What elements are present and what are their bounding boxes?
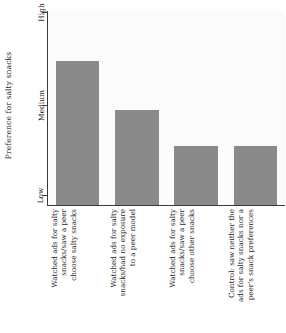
x-tick-label-3-line3: peer's snack preferences: [246, 209, 255, 302]
bar-1: [115, 110, 159, 205]
x-tick-label-2: Watched ads for salty snacks/saw a peer …: [168, 207, 224, 333]
y-tick-mark-high: [42, 12, 47, 13]
bars-layer: [48, 11, 285, 205]
y-tick-mark-low: [42, 195, 47, 196]
bar-chart: Preference for salty snacks High Medium …: [0, 0, 286, 333]
x-tick-label-2-line1: Watched ads for salty: [168, 209, 177, 288]
y-axis-title-text: Preference for salty snacks: [5, 51, 14, 159]
x-tick-label-3: Control: saw neither the ads for salty s…: [227, 207, 283, 333]
x-labels-layer: Watched ads for salty snacks/saw a peer …: [48, 207, 285, 333]
x-tick-label-0: Watched ads for salty snacks/saw a peer …: [50, 207, 106, 333]
x-tick-label-2-line3: choose other snacks: [187, 209, 196, 288]
bar-0: [56, 61, 100, 205]
bar-3: [234, 146, 278, 205]
y-axis-title: Preference for salty snacks: [0, 0, 18, 210]
x-tick-label-1-line2: snacks/had no exposure: [118, 209, 127, 296]
x-tick-label-1-line1: Watched ads for salty: [109, 209, 118, 296]
x-tick-label-1-line3: to a peer model: [128, 209, 137, 296]
x-tick-label-3-line1: Control: saw neither the: [227, 209, 236, 302]
x-axis-line: [47, 205, 285, 206]
x-tick-label-0-line1: Watched ads for salty: [50, 209, 59, 288]
x-tick-label-1: Watched ads for salty snacks/had no expo…: [109, 207, 165, 333]
y-tick-mark-medium: [42, 105, 47, 106]
x-tick-label-0-line2: snacks/saw a peer: [59, 209, 68, 288]
x-tick-label-3-line2: ads for salty snacks nor a: [237, 209, 246, 302]
bar-2: [174, 146, 218, 205]
x-tick-label-2-line2: snacks/saw a peer: [178, 209, 187, 288]
x-tick-label-0-line3: choose salty snacks: [68, 209, 77, 288]
